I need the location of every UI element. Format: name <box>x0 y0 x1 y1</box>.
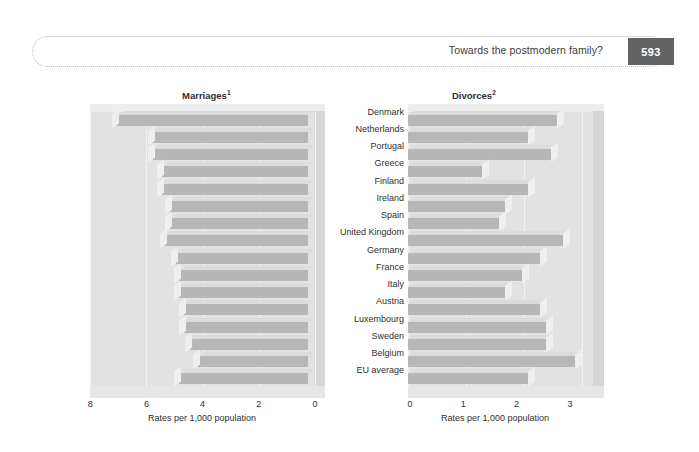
bar-row <box>408 128 594 146</box>
category-label: France <box>376 262 404 272</box>
bar <box>408 339 548 350</box>
bar-row <box>90 283 315 301</box>
bar-row <box>90 197 315 215</box>
category-label: Belgium <box>371 348 404 358</box>
category-label: Portugal <box>370 141 404 151</box>
bar <box>179 287 308 298</box>
axis-tick-label: 1 <box>461 399 466 409</box>
bar <box>179 373 308 384</box>
bar <box>153 132 308 143</box>
plot-area-divorces <box>408 104 604 398</box>
bar <box>408 115 559 126</box>
bar <box>408 166 484 177</box>
bar-row <box>90 335 315 353</box>
bar <box>170 218 308 229</box>
axis-tick-label: 0 <box>312 399 317 409</box>
bar-row <box>408 231 594 249</box>
category-axis-labels: DenmarkNetherlandsPortugalGreeceFinlandI… <box>322 104 408 398</box>
bar <box>117 115 308 126</box>
bar-end-cap <box>482 160 489 179</box>
category-label: Luxembourg <box>354 314 404 324</box>
chart-floor <box>408 386 604 398</box>
bar-end-cap <box>551 143 558 162</box>
value-axis-divorces: 0123Rates per 1,000 population <box>398 399 613 425</box>
bar-row <box>408 335 594 353</box>
category-label: Ireland <box>376 193 404 203</box>
bar-end-cap <box>499 212 506 231</box>
axis-caption: Rates per 1,000 population <box>148 413 256 423</box>
bar-end-cap <box>528 177 535 196</box>
bar-group-divorces <box>408 111 594 387</box>
bar-row <box>408 180 594 198</box>
axis-tick-label: 3 <box>567 399 572 409</box>
axis-tick-label: 8 <box>88 399 93 409</box>
bar-row <box>90 266 315 284</box>
axis-caption: Rates per 1,000 population <box>441 413 549 423</box>
bar <box>190 339 308 350</box>
bar-row <box>90 369 315 387</box>
bar <box>408 253 542 264</box>
bar-row <box>90 352 315 370</box>
axis-tick-label: 6 <box>144 399 149 409</box>
bar-row <box>90 162 315 180</box>
bar <box>408 201 507 212</box>
chart-title-divorces-footnote: 2 <box>492 89 496 96</box>
category-label: Netherlands <box>355 124 404 134</box>
bar <box>176 253 308 264</box>
bar-row <box>408 300 594 318</box>
bar-row <box>90 214 315 232</box>
bar-row <box>90 300 315 318</box>
bar <box>198 356 308 367</box>
bar <box>153 149 308 160</box>
bar-row <box>408 111 594 129</box>
bar <box>408 235 565 246</box>
bar-end-cap <box>522 264 529 283</box>
chart-title-marriages-footnote: 1 <box>227 89 231 96</box>
chart-title-marriages-text: Marriages <box>182 90 227 101</box>
bar <box>408 218 501 229</box>
bar <box>162 166 308 177</box>
bar-end-cap <box>540 298 547 317</box>
bar-end-cap <box>528 126 535 145</box>
bar-end-cap <box>575 350 582 369</box>
chart-title-marriages: Marriages1 <box>182 89 231 101</box>
category-label: Greece <box>374 158 404 168</box>
bar-row <box>408 162 594 180</box>
category-label: Sweden <box>371 331 404 341</box>
plot-area-marriages <box>90 104 325 398</box>
axis-tick-label: 4 <box>200 399 205 409</box>
bar-row <box>408 266 594 284</box>
bar-row <box>408 145 594 163</box>
category-label: Spain <box>381 210 404 220</box>
bar-row <box>90 249 315 267</box>
bar <box>165 235 308 246</box>
category-label: Germany <box>367 245 404 255</box>
bar <box>408 287 507 298</box>
category-label: Denmark <box>367 107 404 117</box>
bar-group-marriages <box>90 111 315 387</box>
category-label: EU average <box>356 365 404 375</box>
bar-row <box>90 318 315 336</box>
bar-row <box>90 145 315 163</box>
bar <box>184 322 308 333</box>
bar <box>408 356 577 367</box>
bar-row <box>408 249 594 267</box>
chart-title-divorces-text: Divorces <box>452 90 492 101</box>
bar <box>184 304 308 315</box>
category-label: Italy <box>387 279 404 289</box>
bar-end-cap <box>505 281 512 300</box>
bar <box>170 201 308 212</box>
bar-end-cap <box>563 229 570 248</box>
bar-end-cap <box>546 315 553 334</box>
bar <box>408 270 524 281</box>
axis-tick-label: 0 <box>407 399 412 409</box>
bar-row <box>408 197 594 215</box>
bar-row <box>408 369 594 387</box>
bar-row <box>90 231 315 249</box>
value-axis-marriages: 86420Rates per 1,000 population <box>80 399 340 425</box>
gridline <box>315 111 316 387</box>
bar <box>408 304 542 315</box>
bar-row <box>90 128 315 146</box>
bar <box>408 149 553 160</box>
bar-end-cap <box>540 246 547 265</box>
